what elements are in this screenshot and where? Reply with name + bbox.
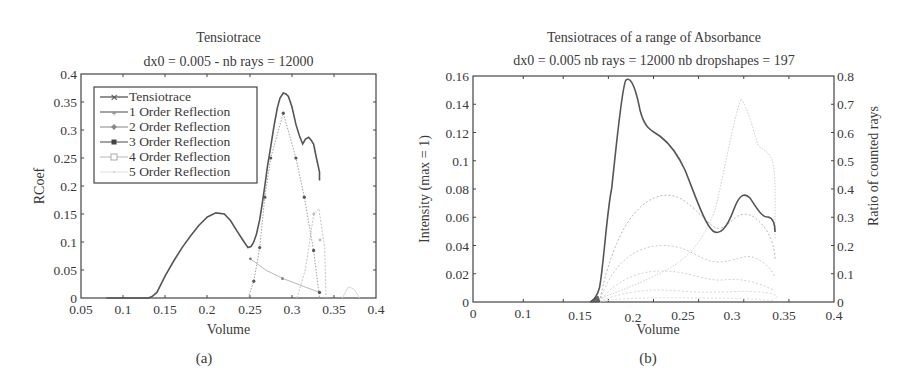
y-tick-label: 0.14 bbox=[445, 97, 469, 112]
figure: Tensiotrace dx0 = 0.005 - nb rays = 1200… bbox=[0, 0, 902, 392]
series-absorbance-1 bbox=[599, 195, 775, 302]
y-right-tick-label: 0.2 bbox=[837, 239, 854, 254]
legend-label: 3 Order Reflection bbox=[129, 134, 230, 149]
panel-b-title: Tensiotraces of a range of Absorbance bbox=[547, 30, 761, 45]
x-tick-label: 0.15 bbox=[568, 308, 592, 323]
x-tick-label: 0 bbox=[470, 306, 477, 321]
y-tick-label: 0 bbox=[462, 295, 469, 310]
panel-b-x-label: Volume bbox=[636, 322, 679, 337]
y-right-tick-label: 0.1 bbox=[837, 267, 854, 282]
dot-marker-icon bbox=[113, 171, 115, 173]
panel-a: Tensiotrace dx0 = 0.005 - nb rays = 1200… bbox=[32, 30, 385, 367]
x-tick-label: 0.3 bbox=[724, 308, 741, 323]
x-tick-label: 0.4 bbox=[368, 302, 385, 317]
x-tick-label: 0.2 bbox=[199, 302, 216, 317]
x-tick-label: 0.25 bbox=[671, 308, 695, 323]
panel-b-x-ticks bbox=[523, 76, 789, 302]
panel-b-y-right-label: Ratio of counted rays bbox=[866, 106, 881, 226]
series-intensity-main bbox=[590, 79, 775, 302]
panel-a-legend: ✕ Tensiotrace + 1 Order Reflection 2 Ord… bbox=[94, 87, 257, 183]
y-tick-label: 0.4 bbox=[60, 67, 77, 82]
legend-item-tensiotrace: ✕ Tensiotrace bbox=[100, 89, 191, 104]
x-tick-label: 0.4 bbox=[826, 308, 843, 323]
y-tick-label: 0.15 bbox=[53, 207, 77, 222]
panel-a-subtitle: dx0 = 0.005 - nb rays = 12000 bbox=[144, 54, 314, 69]
y-tick-label: 0.3 bbox=[60, 123, 77, 138]
series-2-order bbox=[250, 259, 319, 293]
y-right-tick-label: 0.7 bbox=[837, 97, 854, 112]
panel-b-caption: (b) bbox=[639, 350, 657, 367]
x-tick-label: 0.35 bbox=[322, 302, 346, 317]
panel-a-y-label: RCoef bbox=[32, 167, 47, 204]
y-tick-label: 0.08 bbox=[445, 182, 469, 197]
panel-b-subtitle: dx0 = 0.005 nb rays = 12000 nb dropshape… bbox=[513, 53, 795, 68]
panel-b-y-right-tick-labels: 0 0.1 0.2 0.3 0.4 0.5 0.6 0.7 0.8 bbox=[837, 69, 854, 310]
panel-b-axes-frame bbox=[473, 76, 834, 302]
x-tick-label: 0.25 bbox=[238, 302, 262, 317]
plus-marker-icon: + bbox=[111, 108, 116, 118]
series-absorbance-4 bbox=[599, 290, 776, 302]
series-4-order bbox=[297, 208, 326, 298]
x-tick-label: 0.3 bbox=[284, 302, 301, 317]
y-tick-label: 0.1 bbox=[452, 154, 469, 169]
legend-label: 5 Order Reflection bbox=[129, 164, 230, 179]
y-right-tick-label: 0.8 bbox=[837, 69, 854, 84]
x-tick-label: 0.35 bbox=[772, 308, 796, 323]
series-absorbance-5 bbox=[599, 298, 775, 302]
open-square-marker-icon bbox=[111, 154, 117, 160]
legend-label: 4 Order Reflection bbox=[129, 149, 230, 164]
y-tick-label: 0.16 bbox=[445, 69, 469, 84]
panel-b: Tensiotraces of a range of Absorbance dx… bbox=[417, 30, 881, 367]
panel-a-x-label: Volume bbox=[207, 322, 250, 337]
y-right-tick-label: 0.6 bbox=[837, 126, 854, 141]
x-tick-label: 0.05 bbox=[69, 302, 93, 317]
panel-b-y-label: Intensity (max = 1) bbox=[417, 135, 433, 243]
y-right-tick-label: 0.4 bbox=[837, 182, 854, 197]
panel-b-series bbox=[590, 79, 777, 302]
series-3-order bbox=[248, 113, 320, 298]
panel-a-title: Tensiotrace bbox=[196, 30, 260, 45]
y-tick-label: 0.04 bbox=[445, 239, 469, 254]
y-right-tick-label: 0.5 bbox=[837, 154, 854, 169]
legend-label: Tensiotrace bbox=[129, 89, 191, 104]
legend-label: 1 Order Reflection bbox=[129, 104, 230, 119]
square-marker-icon bbox=[112, 140, 117, 145]
y-tick-label: 0.35 bbox=[53, 95, 77, 110]
y-tick-label: 0.02 bbox=[445, 267, 469, 282]
x-marker-icon: ✕ bbox=[110, 92, 118, 103]
y-tick-label: 0.1 bbox=[60, 235, 77, 250]
x-tick-label: 0.1 bbox=[515, 306, 532, 321]
panel-b-y-tick-labels: 0 0.02 0.04 0.06 0.08 0.1 0.12 0.14 0.16 bbox=[445, 69, 469, 310]
y-tick-label: 0.05 bbox=[53, 263, 77, 278]
y-tick-label: 0.25 bbox=[53, 151, 77, 166]
y-right-tick-label: 0.3 bbox=[837, 210, 854, 225]
y-tick-label: 0.12 bbox=[445, 126, 469, 141]
y-tick-label: 0.06 bbox=[445, 210, 469, 225]
x-tick-label: 0.15 bbox=[153, 302, 177, 317]
panel-a-caption: (a) bbox=[196, 350, 213, 367]
y-tick-label: 0.2 bbox=[60, 179, 77, 194]
panel-a-x-tick-labels: 0.05 0.1 0.15 0.2 0.25 0.3 0.35 0.4 bbox=[69, 302, 385, 317]
series-5-order bbox=[342, 287, 359, 298]
panel-a-y-tick-labels: 0 0.05 0.1 0.15 0.2 0.25 0.3 0.35 0.4 bbox=[53, 67, 77, 306]
legend-label: 2 Order Reflection bbox=[129, 119, 230, 134]
x-tick-label: 0.1 bbox=[115, 302, 132, 317]
series-absorbance-3 bbox=[599, 271, 775, 302]
panel-b-y-ticks bbox=[473, 104, 834, 274]
